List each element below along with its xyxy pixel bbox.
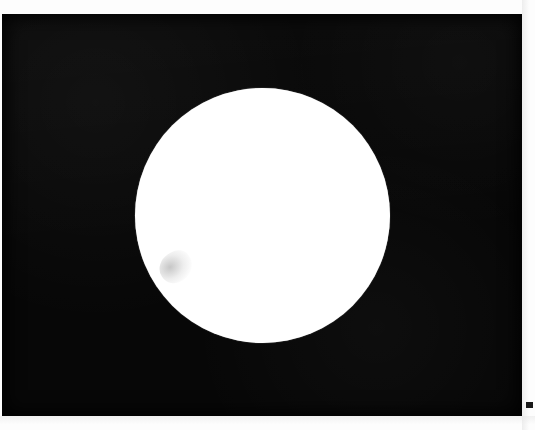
white-disc (135, 88, 390, 343)
registration-tick-mark (526, 402, 533, 408)
screenshot-root: A large solid white circle centered on a… (0, 0, 535, 430)
black-field (2, 14, 522, 416)
